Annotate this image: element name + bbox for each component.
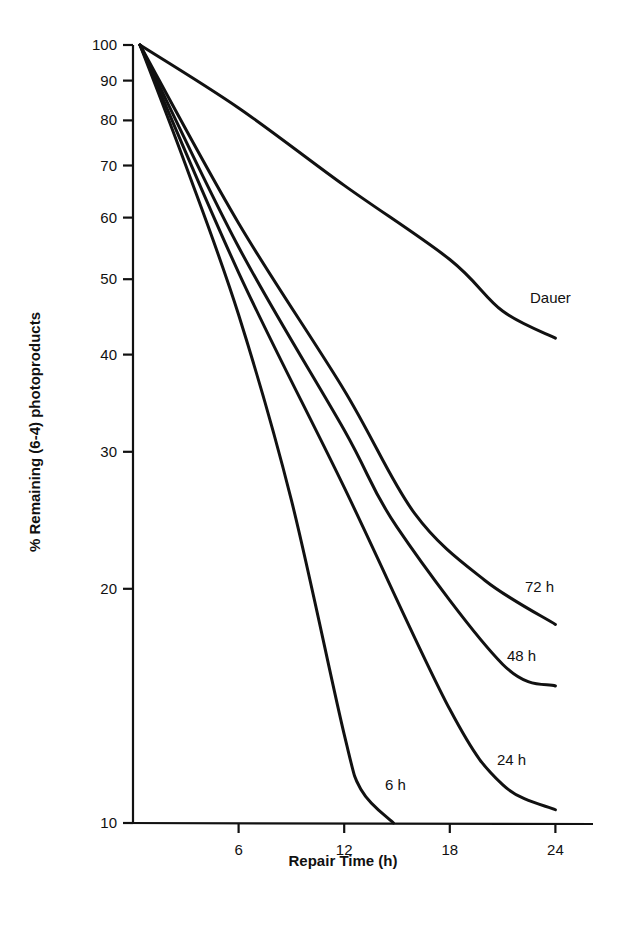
y-tick-label: 90 — [100, 72, 117, 89]
series-label-72h: 72 h — [525, 578, 554, 595]
x-tick-label: 6 — [234, 841, 242, 858]
data-curves — [140, 45, 555, 823]
y-tick-label: 80 — [100, 111, 117, 128]
y-tick-label: 40 — [100, 346, 117, 363]
series-label-6h: 6 h — [385, 776, 406, 793]
y-tick-label: 60 — [100, 209, 117, 226]
y-tick-label: 20 — [100, 580, 117, 597]
y-tick-label: 70 — [100, 157, 117, 174]
curve-72h — [140, 45, 555, 624]
x-axis-line — [123, 823, 593, 824]
curve-48h — [140, 45, 555, 686]
series-labels: Dauer72 h48 h24 h6 h — [385, 289, 571, 793]
x-tick-label: 18 — [441, 841, 458, 858]
series-label-24h: 24 h — [497, 751, 526, 768]
series-label-48h: 48 h — [507, 647, 536, 664]
x-axis-title: Repair Time (h) — [289, 852, 398, 869]
curve-6h — [140, 45, 393, 823]
y-tick-label: 50 — [100, 270, 117, 287]
series-label-dauer: Dauer — [530, 289, 571, 306]
y-axis: 102030405060708090100 — [92, 36, 133, 831]
y-axis-title: % Remaining (6-4) photoproducts — [26, 312, 43, 552]
y-tick-label: 100 — [92, 36, 117, 53]
repair-kinetics-chart: 102030405060708090100 6121824 Dauer72 h4… — [0, 0, 621, 925]
y-tick-label: 30 — [100, 443, 117, 460]
x-tick-label: 24 — [547, 841, 564, 858]
y-tick-label: 10 — [100, 814, 117, 831]
